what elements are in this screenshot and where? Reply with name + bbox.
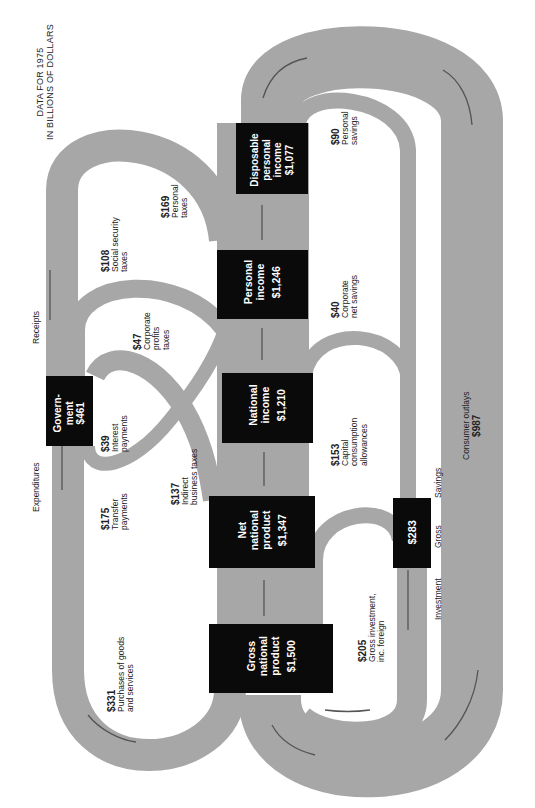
label-indirect-taxes: $137Indirectbusiness taxes xyxy=(170,449,200,505)
arrow-icon xyxy=(325,710,370,712)
label-corporate-net-savings: $40Corporatenet savings xyxy=(330,275,360,318)
label-interest-payments: $39Interestpayments xyxy=(100,415,130,452)
node-personal-income: Personalincome$1,246 xyxy=(217,250,308,319)
label-investment: Investment xyxy=(433,578,443,620)
label-capital-consumption: $153Capitalconsumptionallowances xyxy=(330,418,369,466)
label-receipts: Receipts xyxy=(31,311,41,344)
label-gross: Gross xyxy=(433,525,443,548)
label-transfer-payments: $175Transferpayments xyxy=(100,493,130,530)
label-personal-taxes: $169Personaltaxes xyxy=(160,184,190,218)
label-personal-savings: $90Personalsavings xyxy=(330,111,360,145)
label-expenditures: Expenditures xyxy=(31,462,41,512)
label-purchases: $331Purchases of goodsand services xyxy=(106,637,136,712)
node-government: Govern-ment$461 xyxy=(46,376,93,446)
label-savings: Savings xyxy=(433,468,443,498)
chart-title: DATA FOR 1975 IN BILLIONS OF DOLLARS xyxy=(35,24,56,140)
node-gross-national-product: Grossnationalproduct$1,500 xyxy=(209,624,333,693)
label-gross-investment: $205Gross investment,inc. foreign xyxy=(357,594,387,663)
node-disposable-income: Disposablepersonalincome$1,077 xyxy=(236,123,308,194)
label-corporate-profits-taxes: $47Corporateprofitstaxes xyxy=(132,312,171,350)
node-national-income: Nationalincome$1,210 xyxy=(222,373,313,443)
node-gross-savings: $283 xyxy=(393,498,431,568)
label-consumer-outlays: Consumer outlays$987 xyxy=(462,391,482,460)
circular-flow-diagram: DATA FOR 1975 IN BILLIONS OF DOLLARS Dis… xyxy=(0,0,535,808)
node-net-national-product: Netnationalproduct$1,347 xyxy=(209,496,315,568)
label-social-security: $108Social securitytaxes xyxy=(100,217,130,272)
